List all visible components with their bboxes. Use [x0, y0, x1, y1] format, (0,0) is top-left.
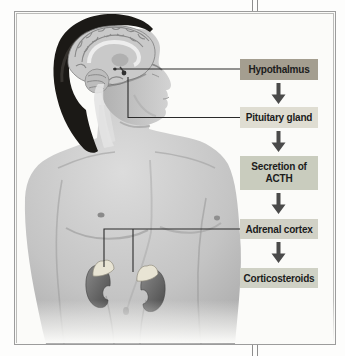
down-arrow-icon: [270, 193, 287, 215]
flow-box-secretion-of-acth: Secretion of ACTH: [240, 156, 318, 190]
flow-box-adrenal-cortex: Adrenal cortex: [240, 219, 318, 239]
book-figure-page: Hypothalmus Pituitary gland Secretion of…: [0, 0, 345, 356]
column-rule-top: [252, 0, 258, 11]
column-rule-bottom: [252, 345, 258, 356]
flow-box-hypothalamus: Hypothalmus: [240, 59, 318, 80]
down-arrow-icon: [270, 83, 287, 105]
down-arrow-icon: [270, 131, 287, 153]
flow-box-corticosteroids: Corticosteroids: [240, 268, 318, 288]
down-arrow-icon: [270, 242, 287, 264]
flow-box-pituitary-gland: Pituitary gland: [240, 107, 318, 128]
